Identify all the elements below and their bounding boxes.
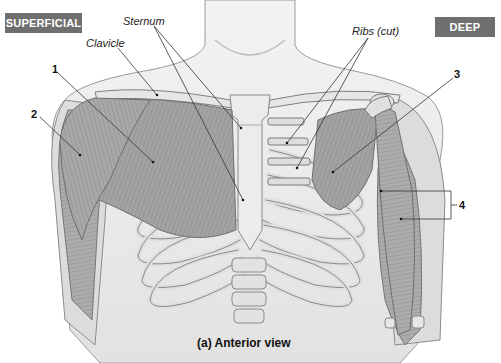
callout-1: 1	[52, 63, 58, 75]
anatomy-figure: SUPERFICIAL DEEP Sternum Clavicle Ribs (…	[0, 0, 501, 363]
sternum-label: Sternum	[123, 15, 165, 27]
clavicle-label: Clavicle	[86, 37, 125, 49]
callout-2: 2	[31, 108, 37, 120]
callout-4: 4	[459, 199, 465, 211]
figure-caption: (a) Anterior view	[197, 336, 291, 350]
torso-illustration	[0, 0, 501, 363]
superficial-badge: SUPERFICIAL	[5, 13, 82, 33]
deep-badge: DEEP	[435, 17, 495, 37]
callout-3: 3	[454, 68, 460, 80]
ribs-cut-label: Ribs (cut)	[352, 25, 399, 37]
